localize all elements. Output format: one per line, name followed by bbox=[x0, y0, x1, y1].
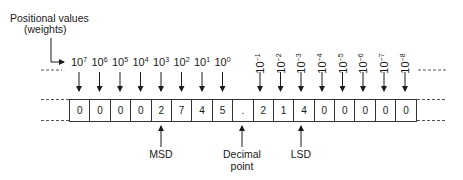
weight-10e2: 102 bbox=[172, 57, 192, 68]
digit-cell: 0 bbox=[90, 100, 110, 121]
weight-10e4: 104 bbox=[131, 57, 151, 68]
digit-cell: 0 bbox=[355, 100, 375, 121]
digit-cell: 0 bbox=[396, 100, 416, 121]
weight-10e7: 107 bbox=[69, 57, 89, 68]
digit-cell: 1 bbox=[274, 100, 294, 121]
msd-label: MSD bbox=[141, 148, 181, 160]
weight-10e5: 105 bbox=[110, 57, 130, 68]
weight-10e-2: 10−2 bbox=[275, 49, 286, 79]
digit-cell: 5 bbox=[213, 100, 233, 121]
decimal-point-cell: . bbox=[233, 100, 253, 121]
digit-cell-lsd: 4 bbox=[294, 100, 314, 121]
lsd-label: LSD bbox=[281, 148, 321, 160]
title-line-2: (weights) bbox=[10, 24, 89, 35]
weight-10e-3: 10−3 bbox=[296, 49, 307, 79]
digit-cell: 0 bbox=[335, 100, 355, 121]
weight-10e-7: 10−7 bbox=[379, 49, 390, 79]
digit-cell: 0 bbox=[315, 100, 335, 121]
positional-values-title: Positional values (weights) bbox=[10, 13, 89, 35]
weight-10e-4: 10−4 bbox=[317, 49, 328, 79]
weight-10e6: 106 bbox=[90, 57, 110, 68]
digit-cell: 0 bbox=[131, 100, 151, 121]
weight-10e-5: 10−5 bbox=[337, 49, 348, 79]
digit-cell: 2 bbox=[254, 100, 274, 121]
weight-10e0: 100 bbox=[213, 57, 233, 68]
decimal-point-label: Decimal point bbox=[217, 148, 267, 172]
weight-arrows bbox=[79, 72, 405, 91]
title-pointer-arrow bbox=[51, 38, 64, 62]
digit-cell: 4 bbox=[192, 100, 212, 121]
weight-10e-1: 10−1 bbox=[255, 49, 266, 79]
digit-cell-msd: 2 bbox=[152, 100, 172, 121]
digit-cell: 0 bbox=[70, 100, 90, 121]
weight-10e3: 103 bbox=[151, 57, 171, 68]
digit-register: 0 0 0 0 2 7 4 5 . 2 1 4 0 0 0 0 0 bbox=[69, 99, 417, 122]
digit-cell: 0 bbox=[111, 100, 131, 121]
weight-10e-8: 10−8 bbox=[400, 49, 411, 79]
digit-cell: 7 bbox=[172, 100, 192, 121]
weight-10e-6: 10−6 bbox=[358, 49, 369, 79]
digit-cell: 0 bbox=[376, 100, 396, 121]
weight-10e1: 101 bbox=[192, 57, 212, 68]
